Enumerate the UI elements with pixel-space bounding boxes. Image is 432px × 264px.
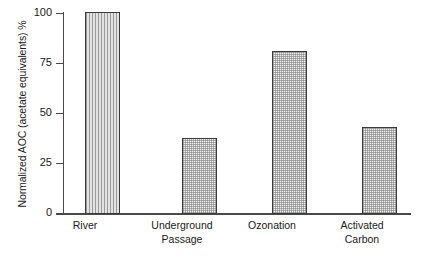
bar-activated-carbon xyxy=(362,127,397,213)
x-label-river: River xyxy=(30,219,140,233)
plot-area xyxy=(63,13,411,214)
y-tick-mark-0 xyxy=(56,213,64,214)
x-label-underground-passage-line2: Passage xyxy=(127,233,237,247)
x-label-river-line1: River xyxy=(30,219,140,233)
bar-underground-passage xyxy=(182,138,217,213)
y-tick-label-0: 0 xyxy=(12,207,52,218)
x-label-activated-carbon: Activated Carbon xyxy=(307,219,417,246)
bar-ozonation xyxy=(272,51,307,213)
bar-river xyxy=(85,12,120,214)
y-tick-label-75: 75 xyxy=(12,57,52,68)
y-tick-label-25: 25 xyxy=(12,157,52,168)
x-axis-line xyxy=(63,213,411,214)
x-label-activated-carbon-line2: Carbon xyxy=(307,233,417,247)
bar-chart-figure: Normalized AOC (acetate equivalents) % 1… xyxy=(0,0,432,264)
y-tick-label-100: 100 xyxy=(12,7,52,18)
x-label-activated-carbon-line1: Activated xyxy=(307,219,417,233)
y-tick-label-50: 50 xyxy=(12,107,52,118)
